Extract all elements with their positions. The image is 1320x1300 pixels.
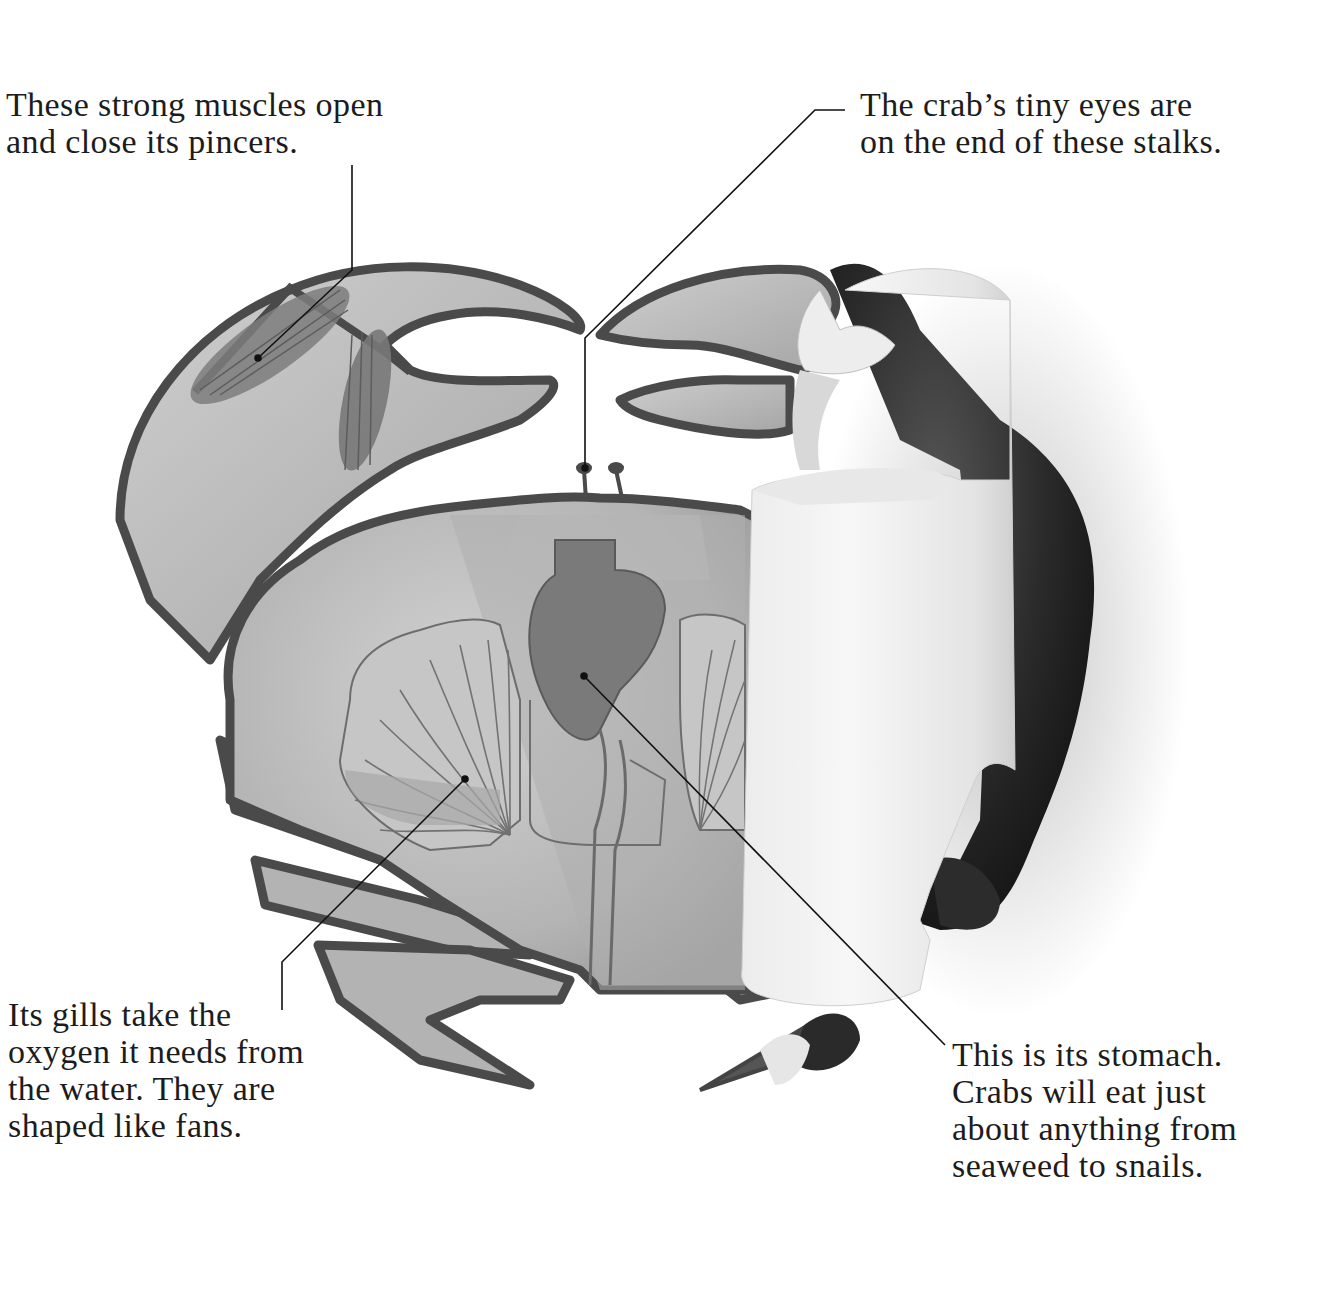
right-gill <box>680 615 745 830</box>
muscles-label-line: and close its pincers. <box>6 123 383 160</box>
muscles-label-line: These strong muscles open <box>6 86 383 123</box>
muscles-label: These strong muscles open and close its … <box>6 86 383 160</box>
gills-label-line: Its gills take the <box>8 996 304 1033</box>
crab-anatomy-diagram: These strong muscles open and close its … <box>0 0 1320 1300</box>
stomach-label: This is its stomach. Crabs will eat just… <box>952 1036 1237 1184</box>
eyes-label: The crab’s tiny eyes are on the end of t… <box>860 86 1222 160</box>
stomach-label-line: This is its stomach. <box>952 1036 1237 1073</box>
stomach-label-line: about anything from <box>952 1110 1237 1147</box>
stomach-label-line: seaweed to snails. <box>952 1147 1237 1184</box>
stomach-label-line: Crabs will eat just <box>952 1073 1237 1110</box>
gills-label-line: shaped like fans. <box>8 1107 304 1144</box>
eyes-label-line: on the end of these stalks. <box>860 123 1222 160</box>
gills-label-line: oxygen it needs from <box>8 1033 304 1070</box>
gills-label: Its gills take the oxygen it needs from … <box>8 996 304 1144</box>
gills-label-line: the water. They are <box>8 1070 304 1107</box>
eyes-label-line: The crab’s tiny eyes are <box>860 86 1222 123</box>
